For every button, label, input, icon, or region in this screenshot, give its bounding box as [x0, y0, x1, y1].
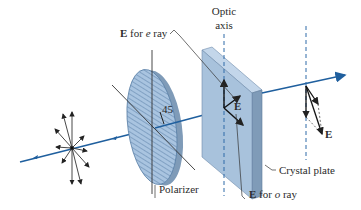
e-vector-plate-label: E — [234, 100, 241, 112]
e-vector-exit-label: E — [325, 128, 332, 140]
exit-field-vectors — [306, 86, 322, 134]
polarizer: 45 — [112, 50, 195, 194]
label-optic-axis: Optic axis — [212, 5, 237, 31]
e-ray-label-text: for — [127, 27, 145, 39]
crystal-plate-label: Crystal plate — [279, 164, 335, 176]
svg-text:E for o ray: E for o ray — [249, 188, 297, 200]
e-ray-label-suffix: ray — [151, 27, 168, 39]
crystal-plate — [202, 47, 262, 199]
o-ray-label-suffix: ray — [280, 188, 297, 200]
o-ray-label-e: E — [249, 188, 256, 200]
label-polarizer: Polarizer — [155, 183, 199, 198]
polarizer-label: Polarizer — [159, 183, 199, 195]
optic-axis-label-line2: axis — [215, 19, 233, 31]
polarization-diagram: 45 E E E for e ray Optic axis — [0, 0, 361, 210]
label-crystal-plate: Crystal plate — [265, 164, 335, 176]
svg-text:E for e ray: E for e ray — [120, 27, 168, 39]
unpolarized-light-icon — [55, 112, 89, 184]
exit-ray — [262, 75, 345, 93]
optic-axis-label-line1: Optic — [212, 5, 237, 17]
o-ray-label-text: for — [256, 188, 274, 200]
angle-label: 45 — [162, 103, 174, 115]
e-ray-label-e: E — [120, 27, 127, 39]
